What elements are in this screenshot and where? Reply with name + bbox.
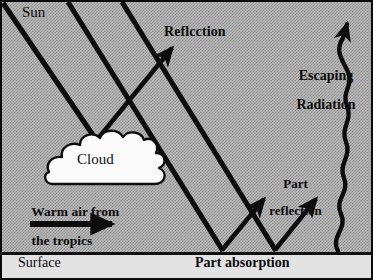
- label-escaping-radiation-line2: Radiation: [296, 97, 355, 112]
- label-part-reflection-line1: Part: [283, 176, 308, 191]
- label-part-reflection-line2: reflection: [269, 203, 321, 218]
- radiation-diagram: Sun Reflcction Escaping Radiation Cloud …: [0, 0, 373, 280]
- label-surface: Surface: [18, 256, 61, 271]
- label-warm-air: Warm air from the tropics: [18, 191, 119, 262]
- label-warm-air-line1: Warm air from: [31, 204, 119, 219]
- label-warm-air-line2: the tropics: [32, 233, 93, 248]
- label-cloud: Cloud: [77, 152, 114, 168]
- label-part-reflection: Part reflection: [252, 163, 326, 232]
- label-escaping-radiation: Escaping Radiation: [277, 54, 361, 128]
- label-reflection: Reflcction: [164, 25, 226, 40]
- label-sun: Sun: [22, 5, 45, 21]
- label-part-absorption: Part absorption: [195, 256, 290, 271]
- label-escaping-radiation-line1: Escaping: [299, 68, 353, 83]
